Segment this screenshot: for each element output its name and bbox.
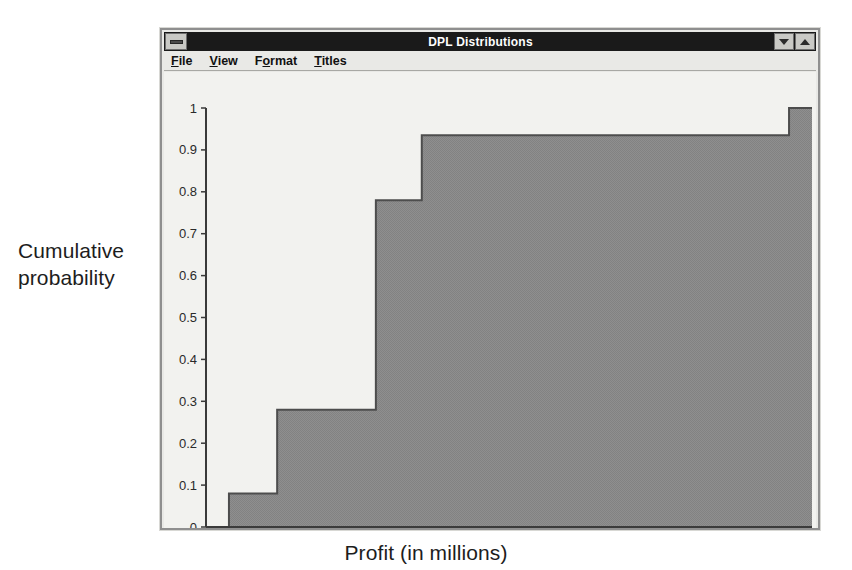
chevron-down-icon [779,39,789,45]
system-menu-glyph [170,40,183,44]
menu-bar: File View Format Titles [164,51,816,71]
y-tick-label: 1 [190,101,197,116]
menu-item-titles[interactable]: Titles [314,54,346,68]
chevron-up-icon [800,39,810,45]
minimize-icon[interactable] [774,33,794,50]
cumulative-distribution-plot: 00.10.20.30.40.50.60.70.80.91 [164,72,816,528]
chart-canvas[interactable]: 00.10.20.30.40.50.60.70.80.91 -50-250255… [164,72,816,528]
dpl-distributions-window: DPL Distributions File View Format Title… [160,28,820,530]
y-tick-label: 0 [190,520,197,529]
menu-item-view[interactable]: View [210,54,238,68]
y-tick-label: 0.9 [179,142,197,157]
y-tick-label: 0.8 [179,184,197,199]
menu-item-file[interactable]: File [171,54,193,68]
y-axis-title-line-2: probability [18,265,168,292]
title-bar: DPL Distributions [164,32,816,51]
y-tick-label: 0.2 [179,436,197,451]
y-tick-label: 0.3 [179,394,197,409]
y-tick-label: 0.7 [179,226,197,241]
maximize-icon[interactable] [795,33,815,50]
y-axis-title: Cumulative probability [18,238,168,291]
window-title: DPL Distributions [187,35,774,49]
y-tick-label: 0.4 [179,352,197,367]
y-tick-label: 0.1 [179,478,197,493]
y-axis-title-line-1: Cumulative [18,238,168,265]
x-axis-title: Profit (in millions) [0,541,852,565]
menu-item-format[interactable]: Format [255,54,297,68]
system-menu-icon[interactable] [165,33,187,50]
y-tick-label: 0.6 [179,268,197,283]
y-tick-label: 0.5 [179,310,197,325]
